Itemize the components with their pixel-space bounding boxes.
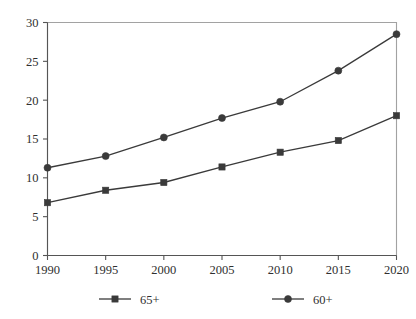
x-tick-label: 2010 <box>268 263 293 277</box>
x-tick-label: 2005 <box>210 263 235 277</box>
x-tick-label: 2015 <box>326 263 351 277</box>
data-point-square <box>393 113 399 119</box>
data-point-circle <box>393 31 400 38</box>
y-tick-label: 20 <box>26 94 39 108</box>
y-tick-label: 0 <box>32 249 38 263</box>
data-point-square <box>219 164 225 170</box>
plot-frame <box>48 23 397 256</box>
data-point-square <box>335 137 341 143</box>
chart-figure: 302520151050 199019952000200520102015202… <box>0 0 416 319</box>
data-point-circle <box>44 164 51 171</box>
x-tick-label: 2000 <box>151 263 176 277</box>
legend-label: 65+ <box>140 293 160 307</box>
series-line <box>48 116 397 203</box>
y-tick-label: 10 <box>26 171 39 185</box>
chart-axes <box>48 23 397 256</box>
data-point-square <box>277 149 283 155</box>
data-point-circle <box>335 67 342 74</box>
y-tick-label: 5 <box>32 210 38 224</box>
data-point-circle <box>277 98 284 105</box>
legend-marker-circle <box>285 296 292 303</box>
chart-series <box>44 31 400 206</box>
y-tick-label: 25 <box>26 55 39 69</box>
data-point-circle <box>160 134 167 141</box>
data-point-square <box>44 200 50 206</box>
x-tick-label: 1990 <box>35 263 60 277</box>
line-chart: 302520151050 199019952000200520102015202… <box>0 0 416 319</box>
x-tick-label: 2020 <box>384 263 409 277</box>
legend-item-60plus[interactable]: 60+ <box>272 293 333 307</box>
y-tick-label: 15 <box>26 132 39 146</box>
data-point-square <box>103 187 109 193</box>
y-axis-ticks: 302520151050 <box>26 16 48 263</box>
y-tick-label: 30 <box>26 16 39 30</box>
data-point-circle <box>219 115 226 122</box>
x-tick-label: 1995 <box>93 263 118 277</box>
data-point-square <box>161 179 167 185</box>
series-line <box>48 34 397 168</box>
x-axis-ticks: 1990199520002005201020152020 <box>35 256 409 277</box>
series-60plus <box>44 31 400 172</box>
legend-label: 60+ <box>313 293 333 307</box>
chart-legend: 65+60+ <box>99 293 333 307</box>
legend-marker-square <box>112 296 118 302</box>
data-point-circle <box>102 153 109 160</box>
series-65plus <box>44 113 399 206</box>
legend-item-65plus[interactable]: 65+ <box>99 293 160 307</box>
